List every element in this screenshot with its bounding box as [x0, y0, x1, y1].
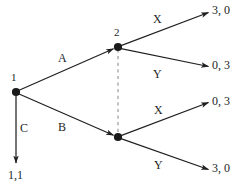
payoff-bottom-y: 3, 0	[212, 162, 230, 174]
node-player2-top	[114, 43, 122, 51]
action-label-a: A	[58, 52, 67, 64]
payoff-c: 1,1	[8, 169, 23, 181]
action-label-b: B	[58, 121, 66, 133]
edge-bottom-x	[121, 103, 209, 136]
edge-bottom-y	[121, 139, 209, 170]
action-label-bottom-x: X	[154, 104, 163, 116]
edge-top-x	[121, 13, 209, 46]
node-label-root: 1	[11, 72, 17, 83]
action-label-top-y: Y	[153, 68, 162, 80]
node-root	[12, 88, 20, 96]
payoff-top-x: 3, 0	[212, 4, 230, 16]
game-tree-figure: 1 2 A B C X Y X Y 3, 0 0, 3 0, 3 3, 0 1,…	[0, 0, 244, 183]
action-label-c: C	[20, 122, 28, 134]
payoff-top-y: 0, 3	[212, 59, 230, 71]
game-tree-canvas	[0, 0, 244, 183]
action-label-bottom-y: Y	[154, 159, 163, 171]
edge-top-y	[121, 49, 209, 67]
payoff-bottom-x: 0, 3	[212, 95, 230, 107]
node-player2-bottom	[114, 133, 122, 141]
node-label-player2: 2	[114, 27, 120, 38]
action-label-top-x: X	[153, 13, 162, 25]
